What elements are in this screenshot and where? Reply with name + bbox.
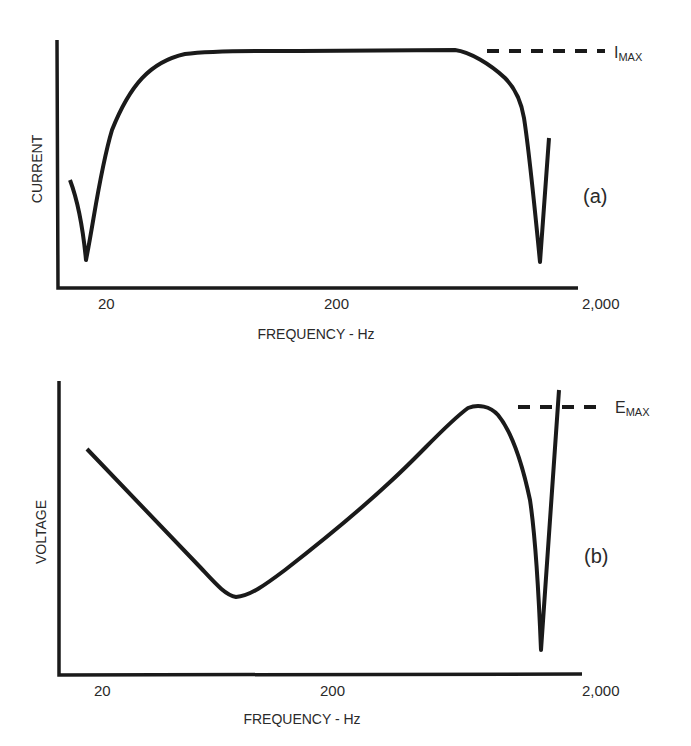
chart-b-voltage-curve bbox=[87, 390, 559, 650]
chart-a-x-axis-title: FREQUENCY - Hz bbox=[257, 326, 374, 342]
chart-b-x-axis-title: FREQUENCY - Hz bbox=[243, 711, 360, 727]
chart-a-panel-label: (a) bbox=[583, 185, 607, 207]
chart-b-tick-2000: 2,000 bbox=[582, 682, 620, 699]
chart-a-y-axis-title: CURRENT bbox=[29, 134, 45, 203]
chart-a: IMAX (a) 20 200 2,000 FREQUENCY - Hz CUR… bbox=[29, 40, 643, 342]
figure: IMAX (a) 20 200 2,000 FREQUENCY - Hz CUR… bbox=[0, 0, 691, 746]
chart-a-tick-20: 20 bbox=[98, 295, 115, 312]
chart-a-axes bbox=[57, 40, 578, 288]
chart-b: EMAX (b) 20 200 2,000 FREQUENCY - Hz VOL… bbox=[33, 381, 650, 727]
chart-b-tick-200: 200 bbox=[320, 682, 345, 699]
chart-a-current-curve bbox=[70, 50, 549, 262]
chart-b-panel-label: (b) bbox=[584, 545, 608, 567]
chart-b-y-axis-title: VOLTAGE bbox=[33, 500, 49, 564]
chart-a-tick-200: 200 bbox=[324, 295, 349, 312]
chart-b-emax-label: EMAX bbox=[615, 399, 650, 418]
chart-a-tick-2000: 2,000 bbox=[582, 295, 620, 312]
chart-a-imax-label: IMAX bbox=[614, 44, 643, 63]
chart-b-tick-20: 20 bbox=[94, 682, 111, 699]
